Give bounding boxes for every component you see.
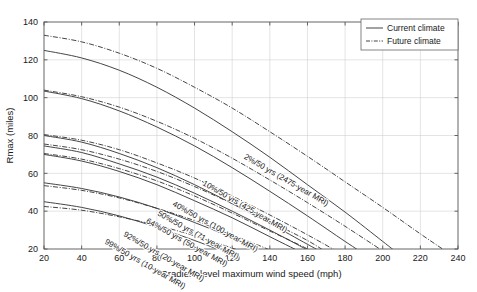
chart-legend: Current climate Future climate (361, 19, 458, 50)
y-tick-label: 20 (28, 244, 38, 254)
x-tick-label: 20 (39, 253, 49, 263)
y-tick-label: 120 (23, 55, 38, 65)
x-tick-label: 160 (300, 253, 315, 263)
x-tick-label: 140 (262, 253, 277, 263)
curve-series-group (44, 35, 452, 263)
x-tick-label: 200 (375, 253, 390, 263)
x-tick-label: 180 (338, 253, 353, 263)
y-tick-label: 100 (23, 93, 38, 103)
curve-annotation: 2%/50 yrs (2475-year MRI) (243, 152, 331, 208)
legend-label-current-climate: Current climate (387, 23, 445, 33)
x-tick-label: 240 (450, 253, 465, 263)
y-tick-label: 80 (28, 131, 38, 141)
x-tick-label: 40 (77, 253, 87, 263)
x-tick-label: 220 (413, 253, 428, 263)
y-axis-label: Rmax (miles) (4, 108, 15, 164)
y-tick-label: 140 (23, 17, 38, 27)
chart-svg: 2040608010012014016018020022024020406080… (0, 0, 477, 292)
y-tick-label: 40 (28, 206, 38, 216)
legend-label-future-climate: Future climate (387, 36, 441, 46)
chart-figure: 2040608010012014016018020022024020406080… (0, 0, 477, 292)
y-tick-label: 60 (28, 169, 38, 179)
